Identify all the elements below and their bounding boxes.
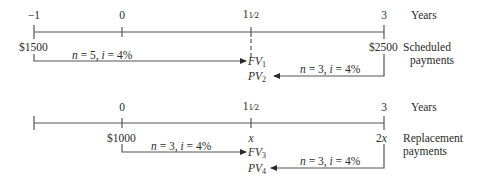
bottom-tick-label-3: 3 [381, 101, 387, 113]
pv2-label: PV2 [248, 70, 266, 86]
tick-label-0: 0 [119, 9, 125, 21]
bottom-back-rate-label: n = 3, i = 4% [300, 155, 360, 167]
amount-2x: 2x [376, 132, 387, 144]
amount-x: x [248, 132, 253, 144]
replacement-payments-label: payments [403, 145, 447, 157]
bottom-tick-label-0: 0 [119, 101, 125, 113]
bottom-tick-label-1-5: 11⁄2 [243, 100, 259, 113]
top-forward-arrow [34, 54, 246, 61]
amount-1500: $1500 [19, 41, 48, 53]
amount-1000: $1000 [107, 132, 136, 144]
bottom-years-label: Years [411, 101, 437, 113]
bottom-forward-rate-label: n = 3, i = 4% [151, 140, 211, 152]
top-back-rate-label: n = 3, i = 4% [300, 63, 360, 75]
amount-2500: $2500 [369, 41, 398, 53]
top-forward-rate-label: n = 5, i = 4% [72, 49, 132, 61]
replacement-label: Replacement [403, 132, 463, 144]
pv4-label: PV4 [248, 162, 266, 178]
fv3-label: FV3 [248, 146, 266, 162]
fv1-label: FV1 [248, 55, 266, 71]
years-label: Years [411, 9, 437, 21]
scheduled-label: Scheduled [403, 41, 451, 53]
tick-label-3: 3 [381, 9, 387, 21]
tick-label-minus-1: −1 [28, 9, 40, 21]
scheduled-payments-label: payments [410, 54, 454, 66]
tick-label-1-5: 11⁄2 [243, 8, 259, 21]
